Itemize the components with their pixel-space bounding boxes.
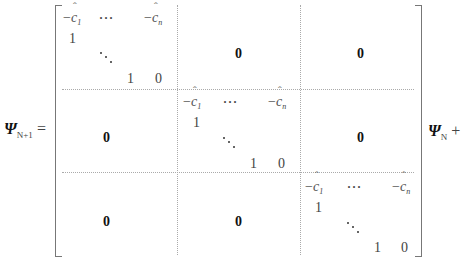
zero-block-r3c1: 0 bbox=[103, 214, 110, 230]
rhs-psi-n: ΨN + bbox=[428, 122, 460, 142]
zero-block-r1c2: 0 bbox=[235, 46, 242, 62]
equals-sign: = bbox=[37, 120, 46, 137]
cut-off-text-line bbox=[0, 0, 465, 2]
block1-last-zero: 0 bbox=[155, 72, 162, 86]
matrix-left-bracket bbox=[55, 5, 62, 257]
c-hat: c bbox=[71, 10, 77, 25]
block3-ellipsis: ··· bbox=[347, 181, 362, 193]
psi-subscript: N+1 bbox=[17, 130, 33, 140]
zero-block-r2c3: 0 bbox=[357, 130, 364, 146]
lhs-psi-n-plus-1: ΨN+1 = bbox=[4, 120, 46, 140]
block-divider-vertical-2 bbox=[300, 5, 301, 255]
block3-last-zero: 0 bbox=[401, 241, 408, 255]
block3-diagonal-dots bbox=[347, 222, 361, 236]
zero-block-r3c2: 0 bbox=[235, 214, 242, 230]
psi-subscript: N bbox=[441, 132, 448, 142]
block2-ellipsis: ··· bbox=[223, 96, 238, 108]
block1-neg-cn: −cn bbox=[144, 11, 162, 27]
block-divider-horizontal-2 bbox=[62, 172, 414, 173]
block1-ellipsis: ··· bbox=[99, 12, 114, 24]
block2-neg-c1: −c1 bbox=[183, 95, 201, 111]
block3-neg-c1: −c1 bbox=[305, 180, 323, 196]
plus-sign: + bbox=[451, 122, 460, 139]
block1-subdiag-one: 1 bbox=[69, 32, 76, 46]
block2-last-zero: 0 bbox=[278, 157, 285, 171]
c-hat: c bbox=[152, 10, 158, 25]
block2-neg-cn: −cn bbox=[268, 95, 286, 111]
c-hat: c bbox=[276, 94, 282, 109]
matrix-right-bracket bbox=[415, 5, 422, 257]
block3-subdiag-one: 1 bbox=[315, 201, 322, 215]
c-hat: c bbox=[400, 179, 406, 194]
block2-diagonal-dots bbox=[223, 137, 237, 151]
c-hat: c bbox=[191, 94, 197, 109]
block1-neg-c1: −0c1 bbox=[63, 11, 81, 27]
block3-last-one: 1 bbox=[374, 241, 381, 255]
psi-symbol: Ψ bbox=[428, 122, 441, 139]
block-divider-horizontal-1 bbox=[62, 89, 414, 90]
block-divider-vertical-1 bbox=[177, 5, 178, 255]
block2-subdiag-one: 1 bbox=[193, 116, 200, 130]
psi-symbol: Ψ bbox=[4, 120, 17, 137]
c-hat: c bbox=[313, 179, 319, 194]
block1-last-one: 1 bbox=[127, 72, 134, 86]
zero-block-r2c1: 0 bbox=[103, 130, 110, 146]
block3-neg-cn: −cn bbox=[392, 180, 410, 196]
zero-block-r1c3: 0 bbox=[357, 46, 364, 62]
block2-last-one: 1 bbox=[250, 157, 257, 171]
block1-diagonal-dots bbox=[100, 52, 114, 66]
